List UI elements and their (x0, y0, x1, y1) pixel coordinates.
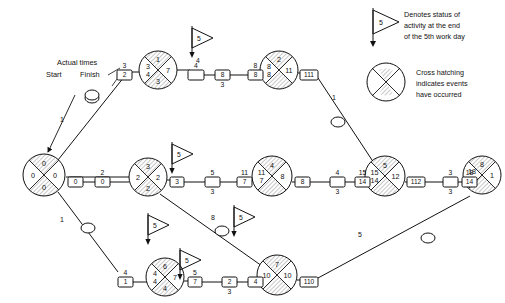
activity-box-112[interactable]: 112 (407, 177, 425, 187)
event-7-bottom-value: 3 (156, 77, 160, 86)
legend-flag-line3: of the 5th work day (404, 32, 465, 42)
activity-box-top-mid-below: 3 (221, 81, 225, 88)
actual-times-label: Actual times (57, 58, 97, 67)
event-10-left-value: 10 (263, 271, 271, 280)
activity-box-8-out-value: 8 (301, 178, 305, 185)
event-11-left-value-2: 8 (267, 70, 271, 79)
activity-box-112-value: 112 (411, 178, 422, 185)
activity-box-start-mid[interactable]: 0 (68, 177, 83, 187)
edge-10-to-12 (318, 196, 470, 278)
activity-box-mid-a[interactable]: 02 (95, 169, 110, 187)
network-diagram-canvas: 0000173342118832224811751215148118186744… (0, 0, 505, 303)
event-7-right-value: 7 (166, 66, 170, 75)
flag-lower-left: 5 (145, 213, 169, 245)
event-11[interactable]: 21188 (260, 51, 298, 89)
activity-box-7b-out[interactable]: 75 (188, 269, 202, 287)
activity-box-bot-a-value: 1 (124, 278, 128, 285)
edge-2-to-10 (160, 194, 262, 266)
event-7-lower-right-value: 7 (173, 273, 177, 282)
event-2-right-value: 2 (156, 173, 160, 182)
edge-marker-start-down[interactable] (81, 223, 95, 233)
flag-top: 54 (189, 26, 213, 64)
event-12[interactable]: 5121514 (365, 156, 405, 196)
legend-hatch-line1: Cross hatching (416, 68, 464, 78)
activity-box-bot-a-above: 4 (124, 269, 128, 276)
edge-marker-topstart[interactable] (85, 90, 99, 100)
flag-mid: 5 (169, 142, 193, 174)
edge-num-start-7: 1 (60, 116, 64, 123)
flag-mid-value: 5 (177, 151, 181, 158)
event-2-bottom-value: 2 (146, 184, 150, 193)
activity-box-mid-a-value: 0 (101, 178, 105, 185)
activity-box-start-top[interactable]: 23 (117, 62, 132, 80)
edge-11-to-12 (318, 78, 372, 160)
event-2-top-value: 3 (146, 162, 150, 171)
activity-box-mid-e-value: 14 (359, 178, 367, 185)
edge-start-to-7 (58, 72, 128, 160)
event-8-left-value-2: 7 (260, 176, 264, 185)
event-8-top-value: 4 (270, 161, 274, 170)
event-7-lower[interactable]: 67444 (146, 258, 184, 296)
event-start[interactable]: 0000 (23, 154, 65, 196)
event-start-top-value: 0 (42, 159, 46, 168)
edge-num-11-12: 1 (332, 94, 336, 101)
activity-box-mid-c-above: 11 (241, 169, 248, 176)
activity-box-mid-e-above: 15 (359, 169, 367, 176)
activity-box-top-11in-value: 8 (254, 71, 258, 78)
activity-box-7b-out-value: 7 (193, 278, 197, 285)
edge-num-2-10: 8 (211, 214, 215, 221)
flag-bottom: 5 (177, 248, 201, 280)
activity-box-top-mid[interactable]: 83 (215, 70, 230, 88)
event-7-top-value: 1 (156, 55, 160, 64)
edge-marker-10-12[interactable] (421, 233, 435, 243)
event-10-top-value: 7 (275, 260, 279, 269)
event-11-right-value: 11 (285, 66, 292, 75)
activity-box-mid-b-below: 3 (211, 188, 215, 195)
event-8[interactable]: 48117 (252, 156, 292, 196)
activity-box-mid-c[interactable]: 711 (237, 169, 252, 187)
network-graphics: 0000173342118832224811751215148118186744… (0, 0, 505, 303)
activity-box-start-top-value: 2 (123, 71, 127, 78)
activity-box-7-out[interactable]: 4 (188, 62, 204, 80)
flag-diag: 5 (231, 205, 255, 237)
activity-box-2-out-value: 3 (175, 178, 179, 185)
event-7[interactable]: 17334 (139, 51, 177, 89)
activity-box-mid-b[interactable]: 53 (205, 169, 220, 196)
flag-lower-left-value: 5 (153, 222, 157, 229)
activity-box-mid-f-above: 3 (449, 169, 453, 176)
activity-box-7b-out-above: 5 (193, 269, 197, 276)
activity-box-bot-a[interactable]: 14 (118, 269, 133, 287)
activity-box-110[interactable]: 110 (300, 277, 318, 287)
activity-box-top-mid-value: 8 (221, 71, 225, 78)
event-10-right-value: 10 (283, 271, 291, 280)
flag-top-value: 5 (197, 35, 201, 42)
activity-box-mid-g-value: 14 (466, 178, 474, 185)
event-10[interactable]: 71010 (257, 255, 297, 295)
event-12-left-value-2: 14 (371, 176, 379, 185)
edge-num-10-12: 5 (358, 231, 362, 238)
activity-box-111-value: 111 (304, 71, 314, 78)
edge-marker-11-12[interactable] (331, 117, 345, 127)
activity-box-start-top-above: 3 (123, 62, 127, 69)
activity-box-mid-c-value: 7 (243, 178, 247, 185)
event-7-lower-top-value: 6 (163, 262, 167, 271)
activity-box-mid-d[interactable]: 43 (330, 169, 345, 196)
activity-box-mid-f[interactable]: 33 (443, 169, 458, 196)
activity-box-bot-c[interactable]: 4 (248, 277, 263, 287)
activity-box-111[interactable]: 111 (300, 70, 318, 80)
legend-flag-line2: activity at the end (404, 21, 460, 31)
activity-box-top-11in-above: 8 (254, 62, 258, 69)
activity-box-bot-b[interactable]: 23 (222, 277, 237, 295)
edge-marker-diag-2-10[interactable] (215, 226, 229, 236)
start-label: Start (46, 70, 62, 79)
event-2[interactable]: 3222 (129, 158, 167, 196)
event-8-right-value: 8 (280, 172, 284, 181)
legend-flag-line1: Denotes status of (404, 10, 460, 20)
activity-box-8-out[interactable]: 8 (295, 177, 310, 187)
activity-box-2-out[interactable]: 3 (170, 177, 184, 187)
activity-box-start-mid-value: 0 (74, 178, 78, 185)
event-start-right-value: 0 (53, 171, 57, 180)
event-end-top-value: 8 (480, 160, 484, 169)
activity-box-mid-d-above: 4 (336, 169, 340, 176)
event-12-right-value: 12 (391, 172, 399, 181)
